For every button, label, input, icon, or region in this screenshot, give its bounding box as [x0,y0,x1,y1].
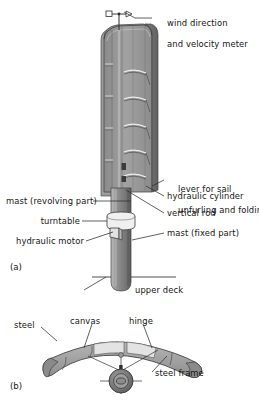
label-mast-fixed-part: mast (fixed part) [167,228,239,238]
label-hydraulic-cylinder: hydraulic cylinder [167,191,244,201]
label-mast-revolving-part: mast (revolving part) [6,196,92,206]
label-hydraulic-motor: hydraulic motor [6,236,84,246]
label-vertical-rod: vertical rod [167,208,216,218]
label-canvas: canvas [70,316,100,326]
label-wind-meter: wind direction and velocity meter [156,8,248,59]
label-hinge: hinge [129,316,153,326]
sail-assembly [101,24,158,205]
panel-tag-a: (a) [10,262,22,272]
label-upper-deck: upper deck [135,285,183,295]
label-turntable: turntable [16,216,80,226]
figure-canvas: wind direction and velocity meter lever … [0,0,259,402]
panel-tag-b: (b) [10,381,22,391]
label-steel-frame: steel frame [155,368,204,378]
label-steel: steel [14,320,35,330]
